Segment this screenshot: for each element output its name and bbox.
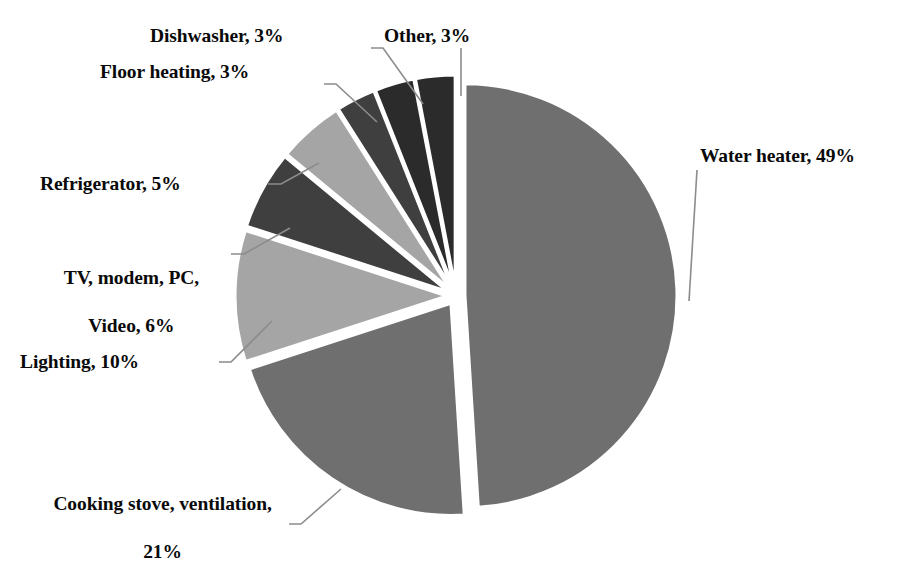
pie-label-refrigerator: Refrigerator, 5% xyxy=(40,172,266,196)
pie-label-water-heater: Water heater, 49% xyxy=(700,144,855,168)
leader-line-water-heater xyxy=(689,170,697,301)
pie-label-tv-modem: TV, modem, PC, Video, 6% xyxy=(16,242,228,362)
leader-line-cooking-stove xyxy=(289,489,341,524)
pie-label-cooking-stove-line1: Cooking stove, ventilation, xyxy=(53,493,271,514)
pie-label-tv-modem-line2: Video, 6% xyxy=(88,315,174,336)
pie-label-floor-heating: Floor heating, 3% xyxy=(100,60,322,84)
pie-label-other: Other, 3% xyxy=(384,24,470,48)
pie-slice-water-heater[interactable] xyxy=(465,84,677,508)
pie-slices-group xyxy=(235,75,677,515)
pie-label-dishwasher: Dishwasher, 3% xyxy=(150,24,369,48)
pie-label-cooking-stove: Cooking stove, ventilation, 21% xyxy=(20,468,286,562)
pie-label-cooking-stove-line2: 21% xyxy=(143,541,182,562)
pie-label-tv-modem-line1: TV, modem, PC, xyxy=(64,267,199,288)
